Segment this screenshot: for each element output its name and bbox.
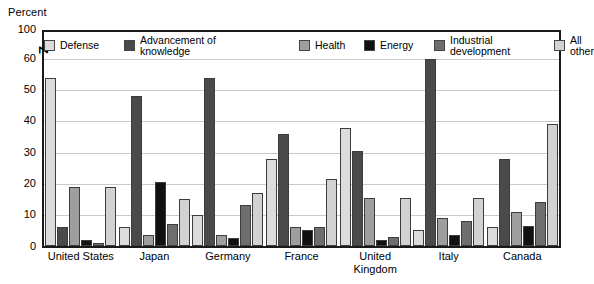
- legend-label: All other: [570, 35, 594, 57]
- bar[interactable]: [425, 59, 436, 246]
- bar[interactable]: [167, 224, 178, 246]
- bar[interactable]: [302, 230, 313, 246]
- cropped-caption-remnant: [0, 272, 585, 284]
- bar[interactable]: [81, 240, 92, 246]
- bar[interactable]: [93, 243, 104, 246]
- y-axis-tick-label: 50: [4, 84, 36, 95]
- bar[interactable]: [511, 212, 522, 246]
- bar-group: [265, 30, 339, 246]
- bar[interactable]: [413, 230, 424, 246]
- bar[interactable]: [473, 198, 484, 246]
- y-axis-tick-label: 60: [4, 53, 36, 64]
- bar[interactable]: [364, 198, 375, 246]
- legend-item-all-other[interactable]: All other: [554, 35, 594, 57]
- bar[interactable]: [119, 227, 130, 246]
- y-axis-tick-label: 30: [4, 147, 36, 158]
- bar-group: [485, 30, 559, 246]
- y-axis-tick-label: 40: [4, 115, 36, 126]
- bar[interactable]: [45, 78, 56, 246]
- bar-group: [191, 30, 265, 246]
- bar[interactable]: [461, 221, 472, 246]
- bar[interactable]: [535, 202, 546, 246]
- y-axis-zero-label: 0: [4, 241, 36, 252]
- y-axis-tick-label: 10: [4, 209, 36, 220]
- bar-group: [338, 30, 412, 246]
- bar-group: [412, 30, 486, 246]
- bar[interactable]: [192, 215, 203, 246]
- bar[interactable]: [278, 134, 289, 246]
- bar[interactable]: [499, 159, 510, 246]
- bar[interactable]: [266, 159, 277, 246]
- bar[interactable]: [523, 226, 534, 246]
- bar[interactable]: [547, 124, 558, 246]
- y-axis-title: Percent: [8, 6, 47, 18]
- bar[interactable]: [388, 237, 399, 246]
- bar-group: [44, 30, 118, 246]
- bar[interactable]: [105, 187, 116, 246]
- bar[interactable]: [290, 227, 301, 246]
- bar[interactable]: [179, 199, 190, 246]
- bar[interactable]: [352, 151, 363, 246]
- bar[interactable]: [314, 227, 325, 246]
- bar[interactable]: [69, 187, 80, 246]
- y-axis-tick-label: 100: [4, 24, 36, 35]
- y-axis-tick-label: 20: [4, 178, 36, 189]
- bar[interactable]: [57, 227, 68, 246]
- bar[interactable]: [400, 198, 411, 246]
- bar[interactable]: [204, 78, 215, 246]
- bar[interactable]: [449, 235, 460, 246]
- bar[interactable]: [240, 205, 251, 246]
- bar[interactable]: [228, 238, 239, 246]
- bar[interactable]: [326, 179, 337, 246]
- bar[interactable]: [376, 240, 387, 246]
- bar-group: [118, 30, 192, 246]
- bar[interactable]: [340, 128, 351, 246]
- bar[interactable]: [437, 218, 448, 246]
- bar-groups: [44, 30, 559, 246]
- bar[interactable]: [143, 235, 154, 246]
- bar[interactable]: [487, 227, 498, 246]
- bar[interactable]: [216, 235, 227, 246]
- bar[interactable]: [131, 96, 142, 246]
- bar[interactable]: [155, 182, 166, 246]
- bar[interactable]: [252, 193, 263, 246]
